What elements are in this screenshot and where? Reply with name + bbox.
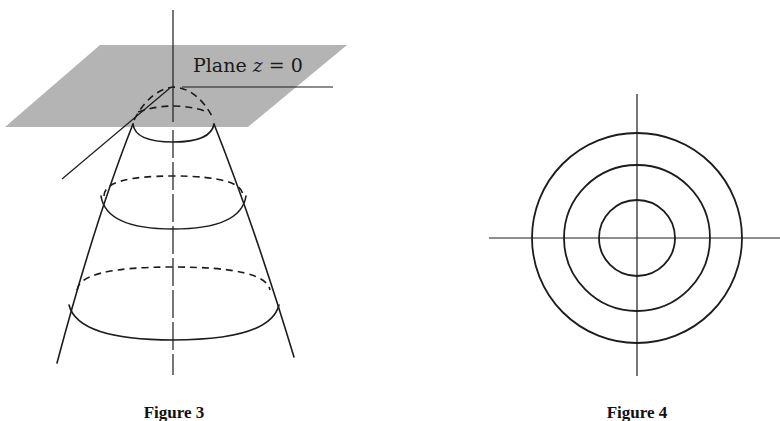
figure-canvas: Plane z = 0 Figure 3 Figure 4 [0,0,780,421]
bottom-ellipse-front [69,305,279,340]
figure-3-caption: Figure 3 [144,403,205,421]
figure-4-caption: Figure 4 [607,403,668,421]
figure-3: Plane z = 0 Figure 3 [5,10,347,421]
figure-4: Figure 4 [489,94,780,421]
paraboloid-right-side [214,124,294,357]
plane-label: Plane z = 0 [193,54,303,76]
paraboloid-left-side [57,124,133,363]
